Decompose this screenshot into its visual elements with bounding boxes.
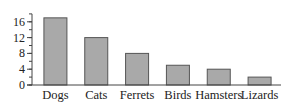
y-tick-label: 4 (19, 62, 25, 76)
bar-lizards (248, 77, 271, 85)
x-category-label: Birds (164, 88, 191, 102)
x-category-label: Dogs (42, 88, 69, 102)
y-tick-label: 8 (19, 46, 25, 60)
bar-birds (166, 65, 189, 85)
y-tick-label: 16 (13, 15, 25, 29)
x-category-label: Ferrets (120, 88, 155, 102)
y-tick-label: 0 (19, 78, 25, 92)
bar-hamsters (207, 69, 230, 85)
x-category-label: Cats (85, 88, 107, 102)
bar-dogs (44, 18, 67, 85)
bar-cats (85, 38, 108, 85)
x-axis: DogsCatsFerretsBirdsHamstersLizards (27, 85, 281, 102)
x-category-label: Hamsters (195, 88, 242, 102)
bars-group (44, 18, 271, 85)
y-axis: 0481216 (13, 14, 32, 92)
bar-ferrets (126, 53, 149, 85)
bar-chart: 0481216 DogsCatsFerretsBirdsHamstersLiza… (0, 0, 288, 105)
x-category-label: Lizards (241, 88, 279, 102)
y-tick-label: 12 (13, 31, 25, 45)
